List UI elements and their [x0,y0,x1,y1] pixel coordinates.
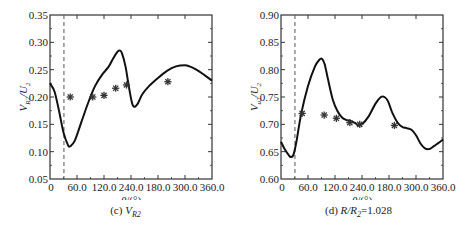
x-tick-label: 180.0 [146,181,171,193]
asterisk-marker [67,93,74,100]
asterisk-marker [123,81,130,88]
asterisk-marker [346,119,353,126]
x-tick-label: 240.0 [119,181,144,193]
caption-c: (c) VR2 [10,204,241,219]
y-tick-label: 0.30 [29,36,49,48]
caption-prefix: (c) [110,204,125,216]
y-tick-label: 0.25 [29,64,49,76]
chart-panel-c: 060.0120.0240.0180.0300.0360.00.050.100.… [0,0,231,230]
x-tick-label: 180.0 [377,181,402,193]
y-tick-label: 0.85 [260,36,280,48]
asterisk-marker [356,121,363,128]
asterisk-marker [391,122,398,129]
asterisk-marker [333,115,340,122]
x-tick-label: 300.0 [173,181,198,193]
x-tick-label: 0 [279,181,285,193]
x-tick-label: 120.0 [323,181,348,193]
x-tick-label: 360.0 [431,181,456,193]
y-tick-label: 0.90 [260,9,280,21]
x-tick-label: 60.0 [298,181,318,193]
plot-vr2: 060.0120.0240.0180.0300.0360.00.050.100.… [0,0,231,200]
x-tick-label: 360.0 [200,181,225,193]
caption-sub: R2 [132,210,141,219]
x-axis-label: θ/(°) [121,194,142,200]
y-tick-label: 0.70 [260,118,280,130]
x-tick-label: 300.0 [404,181,429,193]
asterisk-marker [89,93,96,100]
x-tick-label: 120.0 [92,181,117,193]
x-axis-label: θ/(°) [352,194,373,200]
simulation-curve [281,58,443,157]
y-tick-label: 0.10 [29,146,49,158]
simulation-curve [50,50,212,146]
y-tick-label: 0.15 [29,118,49,130]
y-tick-label: 0.05 [29,173,49,185]
x-tick-label: 0 [48,181,54,193]
caption-suffix: =1.028 [361,204,392,216]
x-tick-label: 60.0 [67,181,87,193]
plot-vu2: 060.0120.0240.0180.0300.0360.00.600.650.… [231,0,462,200]
asterisk-marker [100,92,107,99]
caption-d: (d) R/R2=1.028 [243,204,462,219]
caption-prefix: (d) [325,204,341,216]
caption-var: V [125,204,132,216]
y-tick-label: 0.35 [29,9,49,21]
x-tick-label: 240.0 [350,181,375,193]
y-tick-label: 0.65 [260,146,280,158]
chart-panel-d: 060.0120.0240.0180.0300.0360.00.600.650.… [231,0,462,230]
y-tick-label: 0.80 [260,64,280,76]
caption-var: R/R [341,204,358,216]
y-tick-label: 0.60 [260,173,280,185]
asterisk-marker [299,110,306,117]
asterisk-marker [112,85,119,92]
asterisk-marker [164,78,171,85]
asterisk-marker [321,111,328,118]
